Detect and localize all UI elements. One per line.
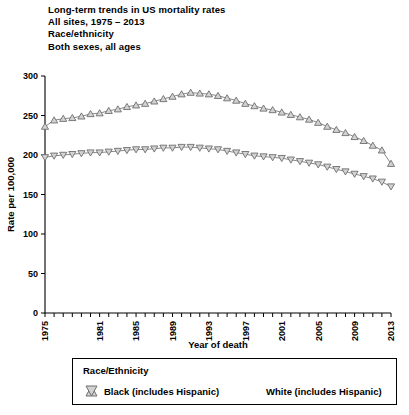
triangle-up-icon (242, 100, 249, 106)
chart-legend: Race/Ethnicity Black (includes Hispanic)… (72, 358, 397, 405)
triangle-down-icon (41, 155, 48, 161)
x-tick-label: 2013 (386, 321, 396, 341)
x-tick-label: 1981 (95, 321, 105, 341)
x-tick-label: 1975 (40, 321, 50, 341)
legend-entry-white: White (includes Hispanic) (245, 383, 382, 399)
x-tick-label: 1989 (168, 321, 178, 341)
legend-title: Race/Ethnicity (83, 365, 148, 376)
triangle-up-icon (378, 147, 385, 153)
series-black (41, 89, 394, 166)
x-tick-label: 1985 (131, 321, 141, 341)
triangle-down-icon (245, 383, 262, 399)
triangle-up-icon (41, 123, 48, 129)
y-axis-title: Rate per 100,000 (5, 157, 16, 232)
triangle-up-icon (315, 119, 322, 125)
chart-figure: Long-term trends in US mortality rates A… (0, 0, 409, 415)
plot-area: 050100150200250300Rate per 100,000197519… (0, 0, 409, 415)
triangle-up-icon (369, 142, 376, 148)
legend-entry-black: Black (includes Hispanic) (83, 383, 219, 399)
x-tick-label: 2005 (314, 321, 324, 341)
y-tick-label: 100 (23, 229, 38, 239)
x-axis-title: Year of death (188, 339, 248, 350)
legend-label-black: Black (includes Hispanic) (104, 386, 219, 397)
series-white (41, 144, 394, 190)
triangle-up-icon (333, 126, 340, 132)
triangle-down-icon (369, 176, 376, 182)
triangle-up-icon (324, 123, 331, 129)
y-tick-label: 200 (23, 150, 38, 160)
triangle-down-icon (378, 179, 385, 185)
y-tick-label: 50 (28, 269, 38, 279)
triangle-up-icon (351, 133, 358, 139)
y-tick-label: 300 (23, 71, 38, 81)
triangle-up-icon (387, 160, 394, 166)
x-tick-label: 2009 (350, 321, 360, 341)
legend-label-white: White (includes Hispanic) (266, 386, 382, 397)
y-tick-label: 250 (23, 111, 38, 121)
x-tick-label: 2001 (277, 321, 287, 341)
legend-entries: Black (includes Hispanic) White (include… (83, 383, 408, 399)
triangle-up-icon (342, 129, 349, 135)
triangle-up-icon (360, 137, 367, 143)
y-tick-label: 0 (33, 308, 38, 318)
y-tick-label: 150 (23, 190, 38, 200)
triangle-down-icon (387, 184, 394, 190)
triangle-up-icon (187, 89, 194, 95)
